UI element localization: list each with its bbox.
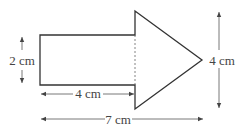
label-total-width: 7 cm xyxy=(105,112,131,127)
dim-total-width: 7 cm xyxy=(41,112,203,127)
dim-rect-height: 2 cm xyxy=(9,37,35,83)
label-rect-height: 2 cm xyxy=(9,53,35,68)
label-triangle-height: 4 cm xyxy=(209,53,235,68)
arrow-diagram: 2 cm 4 cm 7 cm 4 cm xyxy=(0,0,245,132)
dim-triangle-height: 4 cm xyxy=(209,12,235,108)
dim-rect-width: 4 cm xyxy=(41,86,134,101)
label-rect-width: 4 cm xyxy=(75,86,101,101)
